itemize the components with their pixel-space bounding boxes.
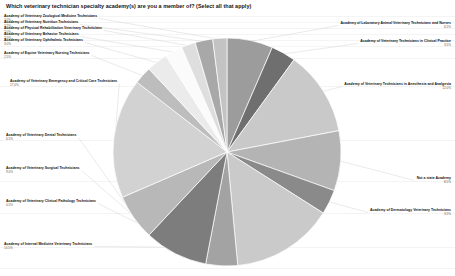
slice-label: Not a state Academy8.5%	[417, 176, 451, 185]
slice-label-percent: 3.5%	[360, 44, 451, 48]
slice-label: Academy of Veterinary Ophthalmic Technic…	[4, 38, 83, 47]
slice-label-percent: 3.5%	[370, 213, 451, 217]
slice-label-percent: 12.0%	[344, 87, 451, 91]
slice-label: Academy of Laboratory Animal Veterinary …	[341, 21, 451, 30]
slice-label: Academy of Veterinary Emergency and Crit…	[10, 79, 117, 88]
slice-label-text: Academy of Veterinary Clinical Pathology…	[6, 199, 96, 203]
pie-chart-figure: Which veterinary technician specialty ac…	[0, 0, 455, 276]
slice-label-text: Academy of Physical Rehabilitation Veter…	[4, 26, 102, 30]
slice-label: Academy of Veterinary Surgical Technicia…	[6, 166, 79, 175]
slice-label-text: Academy of Veterinary Zoological Medicin…	[4, 14, 97, 18]
slice-label-percent: 8.5%	[417, 181, 451, 185]
slice-label: Academy of Internal Medicine Veterinary …	[4, 242, 92, 251]
slice-label-text: Academy of Laboratory Animal Veterinary …	[341, 21, 451, 25]
slice-label-percent: 17.0%	[10, 84, 117, 88]
slice-label-text: Academy of Veterinary Dental Technicians	[6, 133, 76, 137]
slice-label: Academy of Equine Veterinary Nursing Tec…	[4, 51, 90, 60]
slice-label-percent: 9.0%	[6, 171, 79, 175]
slice-label: Academy of Veterinary Technicians in Cli…	[360, 39, 451, 48]
slice-label: Academy of Dermatology Veterinary Techni…	[370, 208, 451, 217]
slice-label-text: Academy of Veterinary Ophthalmic Technic…	[4, 38, 83, 42]
slice-label-text: Academy of Veterinary Surgical Technicia…	[6, 166, 79, 170]
slice-label-text: Academy of Veterinary Technicians in Cli…	[360, 39, 451, 43]
slice-label-text: Academy of Veterinary Emergency and Crit…	[10, 79, 117, 83]
slice-label-text: Academy of Veterinary Behavior Technicia…	[4, 32, 79, 36]
slice-label-text: Academy of Equine Veterinary Nursing Tec…	[4, 51, 90, 55]
slice-label-text: Academy of Dermatology Veterinary Techni…	[370, 208, 451, 212]
slice-label-percent: 2.5%	[4, 56, 90, 60]
slice-label-percent: 6.5%	[341, 26, 451, 30]
slice-label-text: Academy of Internal Medicine Veterinary …	[4, 242, 92, 246]
slice-label-percent: 3.0%	[4, 43, 83, 47]
slice-label-percent: 4.5%	[6, 204, 96, 208]
slice-label-percent: 6.5%	[6, 138, 76, 142]
slice-label: Academy of Veterinary Clinical Pathology…	[6, 199, 96, 208]
slice-label-text: Academy of Veterinary Nutrition Technici…	[4, 20, 78, 24]
slice-label: Academy of Veterinary Dental Technicians…	[6, 133, 76, 142]
slice-label-percent: 14.5%	[4, 247, 92, 251]
slice-label-text: Academy of Veterinary Technicians in Ane…	[344, 82, 451, 86]
slice-label: Academy of Veterinary Technicians in Ane…	[344, 82, 451, 91]
